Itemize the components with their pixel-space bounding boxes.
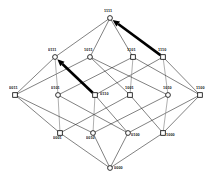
node-label-1000: 1000 [166, 134, 175, 138]
edge-0000-1000 [110, 133, 163, 168]
node-1110[interactable] [161, 55, 166, 60]
node-label-1100: 1100 [196, 87, 205, 91]
node-label-0001: 0001 [53, 137, 62, 141]
node-label-0000: 0000 [114, 167, 123, 171]
node-label-0110: 0110 [100, 93, 109, 97]
edge-0011-0111 [15, 57, 55, 95]
node-0011[interactable] [13, 93, 18, 98]
edge-0001-0011 [15, 95, 60, 133]
node-label-1110: 1110 [158, 49, 166, 53]
node-1010[interactable] [166, 93, 171, 98]
node-1011[interactable] [88, 55, 93, 60]
node-label-0101: 0101 [51, 87, 60, 91]
node-0111[interactable] [53, 55, 58, 60]
edge-0111-1111 [55, 18, 110, 57]
edge-layer-highlighted [57, 20, 160, 93]
edge-1000-1001 [130, 95, 163, 133]
edge-0101-1101 [58, 57, 133, 95]
node-label-0010: 0010 [86, 137, 95, 141]
node-1101[interactable] [131, 55, 136, 60]
node-0000[interactable] [108, 166, 113, 171]
highlighted-edge-0110-0111 [62, 64, 92, 93]
node-0100[interactable] [126, 131, 131, 136]
node-label-0011: 0011 [9, 87, 18, 91]
node-label-1001: 1001 [125, 87, 134, 91]
node-label-1111: 1111 [104, 10, 112, 14]
node-1100[interactable] [198, 93, 203, 98]
hasse-diagram-figure: 1111011110111101111000110101011010011010… [0, 0, 217, 179]
node-0010[interactable] [91, 131, 96, 136]
edge-0001-0101 [58, 95, 60, 133]
highlighted-edge-1110-1111 [118, 24, 160, 55]
node-label-0111: 0111 [48, 49, 56, 53]
node-1000[interactable] [161, 131, 166, 136]
node-0110[interactable] [93, 93, 98, 98]
node-1001[interactable] [128, 93, 133, 98]
edge-0010-0011 [15, 95, 93, 133]
edge-0000-0100 [110, 133, 128, 168]
edge-0010-1010 [93, 95, 168, 133]
node-0101[interactable] [56, 93, 61, 98]
edge-0000-0010 [93, 133, 110, 168]
lattice-graph-canvas [0, 0, 217, 179]
edge-1000-1100 [163, 95, 200, 133]
node-1111[interactable] [108, 16, 113, 21]
node-label-1010: 1010 [163, 87, 172, 91]
node-label-0100: 0100 [131, 134, 140, 138]
edge-1011-1111 [90, 18, 110, 57]
edge-0100-0110 [95, 95, 128, 133]
edge-0000-0001 [60, 133, 110, 168]
node-label-1011: 1011 [84, 49, 93, 53]
node-0001[interactable] [58, 131, 63, 136]
node-label-1101: 1101 [127, 49, 136, 53]
